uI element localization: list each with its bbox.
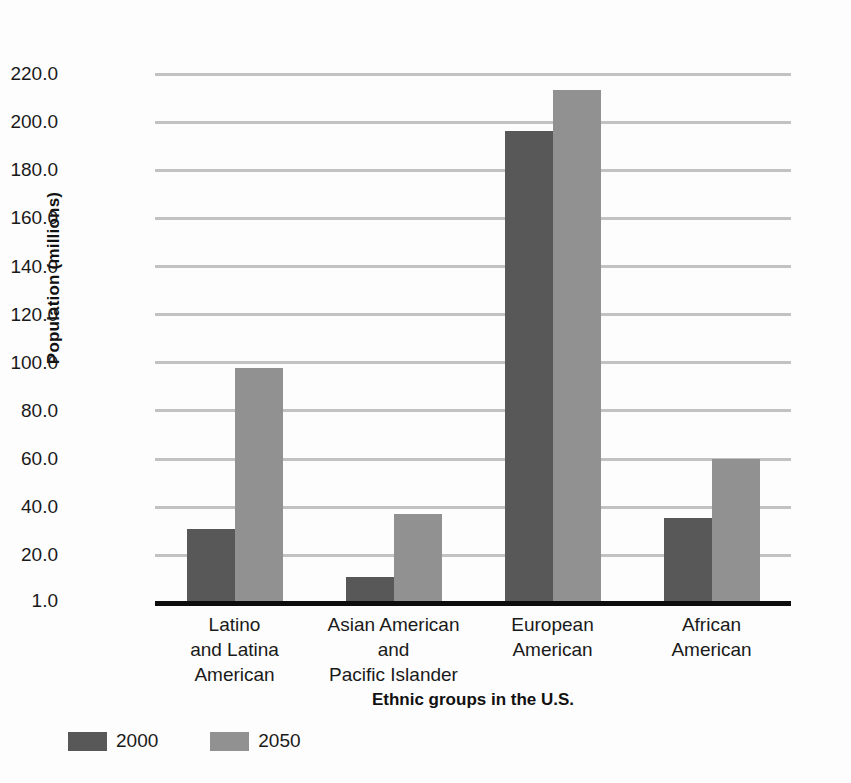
plot-area [155,50,791,601]
x-axis-category-label: Latinoand LatinaAmerican [145,612,324,687]
bar-2000-2[interactable] [505,131,553,601]
bar-2000-1[interactable] [346,577,394,601]
x-axis-title: Ethnic groups in the U.S. [155,690,791,710]
gridline [155,169,791,172]
gridline [155,121,791,124]
category-label-line: American [145,662,324,687]
bar-2050-0[interactable] [235,368,283,601]
chart-legend: 20002050 [68,730,301,752]
category-label-line: Asian American [304,612,483,637]
gridline [155,313,791,316]
y-axis-tick-label: 1.0 [0,590,58,612]
legend-label: 2050 [258,730,300,752]
y-axis-tick-label: 100.0 [0,352,58,374]
y-axis-tick-label: 140.0 [0,256,58,278]
category-label-line: European [463,612,642,637]
category-label-line: African [622,612,801,637]
y-axis-tick-label: 20.0 [0,544,58,566]
x-axis-category-label: EuropeanAmerican [463,612,642,662]
bar-2000-0[interactable] [187,529,235,601]
y-axis-tick-label: 200.0 [0,111,58,133]
category-label-line: and [304,637,483,662]
x-axis-category-label: Asian AmericanandPacific Islander [304,612,483,687]
legend-label: 2000 [116,730,158,752]
gridline [155,217,791,220]
legend-item-2050[interactable]: 2050 [210,730,300,752]
bar-2000-3[interactable] [664,518,712,601]
category-label-line: Latino [145,612,324,637]
bar-2050-1[interactable] [394,514,442,601]
y-axis-tick-label: 220.0 [0,63,58,85]
y-axis-tick-label: 60.0 [0,448,58,470]
category-label-line: American [622,637,801,662]
y-axis-tick-label: 180.0 [0,159,58,181]
category-label-line: and Latina [145,637,324,662]
bar-2050-2[interactable] [553,90,601,601]
y-axis-tick-label: 160.0 [0,207,58,229]
legend-item-2000[interactable]: 2000 [68,730,158,752]
x-axis-category-label: AfricanAmerican [622,612,801,662]
x-axis-line [155,601,791,606]
y-axis-tick-label: 40.0 [0,496,58,518]
gridline [155,265,791,268]
bar-2050-3[interactable] [712,459,760,601]
legend-swatch [68,732,107,751]
legend-swatch [210,732,249,751]
gridline [155,361,791,364]
gridline [155,73,791,76]
category-label-line: Pacific Islander [304,662,483,687]
y-axis-tick-label: 80.0 [0,400,58,422]
category-label-line: American [463,637,642,662]
y-axis-tick-label: 120.0 [0,304,58,326]
chart-page: Population (millions) Ethnic groups in t… [0,0,851,783]
